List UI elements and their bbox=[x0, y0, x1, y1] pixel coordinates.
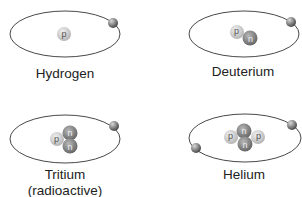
svg-text:p: p bbox=[228, 131, 233, 141]
svg-text:n: n bbox=[67, 142, 72, 152]
label-helium: Helium bbox=[194, 167, 294, 183]
neutron: n bbox=[243, 31, 258, 46]
proton: p bbox=[224, 130, 238, 144]
proton: p bbox=[251, 130, 265, 144]
label-deuterium: Deuterium bbox=[193, 64, 293, 80]
svg-text:p: p bbox=[234, 26, 239, 36]
svg-text:n: n bbox=[241, 126, 246, 136]
label-line: Tritium bbox=[15, 167, 115, 183]
label-line: (radioactive) bbox=[15, 183, 115, 197]
atom-deuterium: p n bbox=[189, 11, 299, 57]
electron bbox=[109, 121, 119, 131]
label-line: Hydrogen bbox=[36, 66, 95, 81]
svg-text:p: p bbox=[54, 134, 59, 144]
electron bbox=[108, 18, 118, 28]
electron bbox=[287, 120, 297, 130]
svg-text:n: n bbox=[248, 34, 253, 44]
svg-text:n: n bbox=[242, 140, 247, 150]
electron bbox=[286, 17, 296, 27]
neutron: n bbox=[237, 124, 252, 139]
electron bbox=[191, 143, 201, 153]
proton: p bbox=[230, 25, 244, 39]
label-line: Deuterium bbox=[212, 64, 274, 79]
proton: p bbox=[57, 27, 71, 41]
neutron: n bbox=[63, 139, 78, 154]
neutron: n bbox=[63, 126, 78, 141]
neutron: n bbox=[238, 137, 253, 152]
svg-text:p: p bbox=[256, 131, 261, 141]
proton: p bbox=[50, 132, 64, 146]
atom-hydrogen: p bbox=[10, 11, 120, 57]
svg-text:p: p bbox=[61, 29, 66, 39]
label-tritium: Tritium (radioactive) bbox=[15, 167, 115, 197]
atom-tritium: p n n bbox=[10, 115, 120, 163]
atom-helium: p p n n bbox=[189, 114, 301, 162]
electron-orbit bbox=[10, 115, 120, 163]
label-hydrogen: Hydrogen bbox=[15, 66, 115, 82]
svg-text:n: n bbox=[67, 128, 72, 138]
label-line: Helium bbox=[223, 167, 265, 182]
